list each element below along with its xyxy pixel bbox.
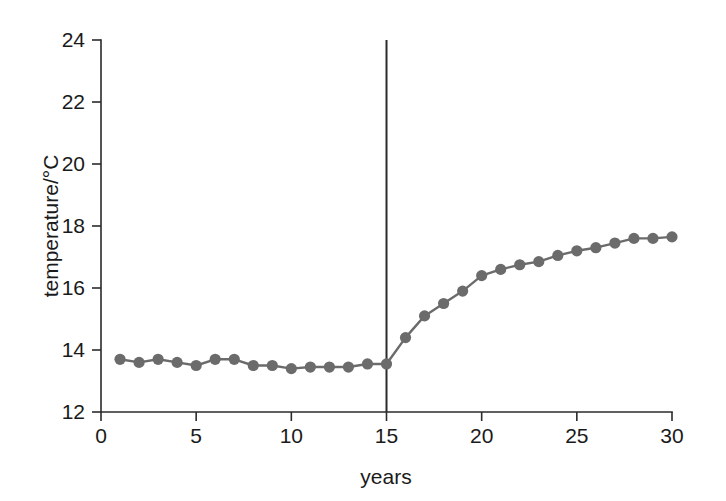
data-point (229, 354, 240, 365)
x-tick-label: 10 (280, 424, 303, 447)
y-tick-label: 14 (62, 338, 86, 361)
data-point (666, 231, 677, 242)
data-point (590, 242, 601, 253)
data-point (172, 357, 183, 368)
data-point (438, 298, 449, 309)
x-tick-label: 5 (190, 424, 202, 447)
y-tick-label: 16 (62, 276, 85, 299)
data-point (343, 361, 354, 372)
data-point (153, 354, 164, 365)
data-point (248, 360, 259, 371)
x-tick-label: 15 (375, 424, 398, 447)
y-tick-label: 20 (62, 152, 85, 175)
x-axis-tick-labels: 051015202530 (95, 424, 684, 447)
data-point (400, 332, 411, 343)
data-point (114, 354, 125, 365)
data-point (552, 250, 563, 261)
data-point (133, 357, 144, 368)
y-tick-label: 12 (62, 400, 85, 423)
y-tick-label: 24 (62, 28, 86, 51)
y-axis-title: temperature/°C (39, 155, 62, 298)
x-axis-ticks (101, 412, 672, 421)
y-tick-label: 18 (62, 214, 85, 237)
temperature-line-chart: temperature/°C years 12141618202224 0510… (0, 0, 726, 501)
data-point (571, 245, 582, 256)
data-point (476, 270, 487, 281)
data-point (286, 363, 297, 374)
data-point (457, 286, 468, 297)
x-tick-label: 30 (660, 424, 683, 447)
series-line-temperature (120, 237, 672, 369)
y-axis-ticks (92, 40, 101, 412)
data-point (362, 358, 373, 369)
data-point (495, 264, 506, 275)
data-point (267, 360, 278, 371)
x-tick-label: 25 (565, 424, 588, 447)
data-point (514, 259, 525, 270)
data-point (419, 310, 430, 321)
data-point (628, 233, 639, 244)
x-tick-label: 0 (95, 424, 107, 447)
y-tick-label: 22 (62, 90, 85, 113)
data-point (324, 361, 335, 372)
x-axis-title: years (360, 465, 411, 488)
data-series-layer (114, 231, 677, 374)
x-tick-label: 20 (470, 424, 493, 447)
data-point (210, 354, 221, 365)
data-point (609, 237, 620, 248)
data-point (533, 256, 544, 267)
chart-figure: temperature/°C years 12141618202224 0510… (0, 0, 726, 501)
data-point (191, 360, 202, 371)
data-point (381, 358, 392, 369)
y-axis-tick-labels: 12141618202224 (62, 28, 86, 423)
data-point (305, 361, 316, 372)
data-point (647, 233, 658, 244)
